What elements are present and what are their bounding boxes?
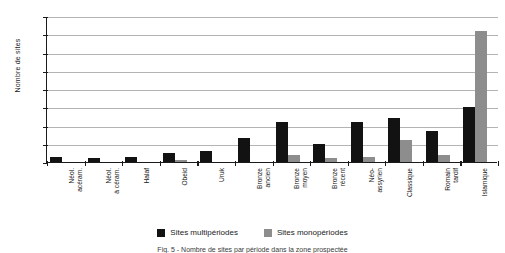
legend-swatch-multi <box>157 229 165 237</box>
bar <box>351 122 363 162</box>
bar <box>50 157 62 162</box>
y-axis-title: Nombre de sites <box>14 16 21 116</box>
x-axis-label: Bronzemoyen <box>293 168 308 224</box>
legend-label: Sites multipériodes <box>170 228 238 237</box>
x-axis-label: Halaf <box>143 168 151 224</box>
bar <box>463 107 475 162</box>
bar-group <box>310 16 348 162</box>
bar-group <box>47 16 85 162</box>
bar <box>175 160 187 162</box>
bars <box>385 118 423 162</box>
x-axis-label: Uruk <box>218 168 226 224</box>
bar-group <box>273 16 311 162</box>
bar <box>125 157 137 162</box>
bar <box>276 122 288 162</box>
bar <box>200 151 212 162</box>
bar <box>388 118 400 162</box>
bar-group <box>197 16 235 162</box>
chart-legend: Sites multipériodesSites monopériodes <box>0 228 505 237</box>
x-axis-label: Bronzeancien <box>256 168 271 224</box>
bar <box>475 31 487 162</box>
legend-item: Sites multipériodes <box>157 228 238 237</box>
bars <box>160 153 198 162</box>
legend-item: Sites monopériodes <box>264 228 348 237</box>
bars <box>348 122 386 162</box>
x-axis-label: Obeid <box>181 168 189 224</box>
bar-group <box>85 16 123 162</box>
x-axis-label: Classique <box>406 168 414 224</box>
bar <box>363 157 375 162</box>
x-axis-label: Néo-assyrien <box>368 168 383 224</box>
bars <box>423 131 461 162</box>
bar <box>313 144 325 162</box>
bars <box>310 144 348 162</box>
bar-group <box>235 16 273 162</box>
bars <box>85 158 123 162</box>
x-axis-label: Romaintardif <box>444 168 459 224</box>
legend-swatch-mono <box>264 229 272 237</box>
x-axis-label: Néol.acéram. <box>68 168 83 224</box>
bar <box>288 155 300 162</box>
bar-group <box>122 16 160 162</box>
bar <box>88 158 100 162</box>
bars <box>197 151 235 162</box>
bar <box>426 131 438 162</box>
x-axis-label: Bronzerécent <box>331 168 346 224</box>
legend-label: Sites monopériodes <box>277 228 348 237</box>
bars <box>273 122 311 162</box>
bar-group <box>160 16 198 162</box>
bar <box>400 140 412 162</box>
bars <box>122 157 160 162</box>
x-axis-labels: Néol.acéram.Néol.à céram.HalafObeidUrukB… <box>46 168 497 224</box>
bar-group <box>348 16 386 162</box>
x-axis-label: Islamique <box>481 168 489 224</box>
bar <box>163 153 175 162</box>
bar <box>238 138 250 162</box>
bar-group <box>423 16 461 162</box>
bar-group <box>460 16 498 162</box>
bars <box>235 138 273 162</box>
bar <box>438 155 450 162</box>
bar-group <box>385 16 423 162</box>
x-tick-mark <box>498 161 499 166</box>
bars <box>460 31 498 162</box>
bars <box>47 157 85 162</box>
figure-caption: Fig. 5 - Nombre de sites par période dan… <box>0 246 505 253</box>
plot-area: 80706050403020100 <box>46 17 497 163</box>
x-axis-label: Néol.à céram. <box>105 168 120 224</box>
bar <box>325 158 337 162</box>
